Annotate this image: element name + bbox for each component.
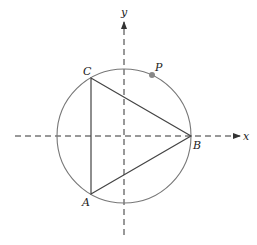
y-axis-label: y bbox=[120, 6, 128, 19]
x-axis-label: x bbox=[243, 130, 250, 143]
vertex-a-label: A bbox=[81, 196, 90, 209]
diagram-canvas: x y C P B A bbox=[0, 0, 257, 245]
point-p-label: P bbox=[154, 61, 163, 74]
vertex-b-label: B bbox=[192, 139, 201, 152]
vertex-c-label: C bbox=[83, 65, 92, 78]
